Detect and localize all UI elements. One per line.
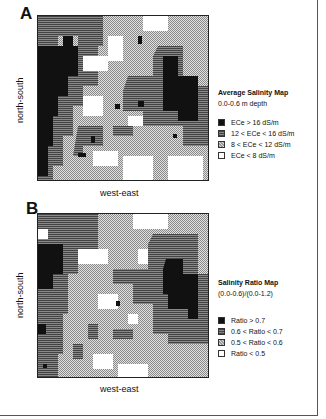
panel-a-label: A — [20, 4, 32, 24]
legend-item: 0.6 < Ratio < 0.7 — [218, 326, 283, 337]
legend-item: ECe > 16 dS/m — [218, 117, 294, 128]
legend-subtitle-b: (0.0-0.6)/(0.0-1.2) — [218, 288, 273, 299]
legend-item: 12 < ECe < 16 dS/m — [218, 128, 294, 139]
x-axis-label-b: west-east — [100, 384, 139, 394]
legend-subtitle-a: 0.0-0.6 m depth — [218, 98, 267, 109]
legend-item: 0.5 < Ratio < 0.6 — [218, 337, 283, 348]
legend-item: ECe < 8 dS/m — [218, 150, 294, 161]
salinity-map-a — [37, 15, 209, 181]
legend-title-a: Average Salinity Map — [218, 87, 288, 98]
legend-item: Ratio < 0.5 — [218, 348, 283, 359]
swatch-black — [218, 119, 225, 126]
legend-title-b: Salinity Ratio Map — [218, 277, 278, 288]
swatch-dark-hatch — [218, 328, 225, 335]
swatch-light-hatch — [218, 339, 225, 346]
legend-a: ECe > 16 dS/m 12 < ECe < 16 dS/m 8 < ECe… — [218, 117, 294, 161]
y-axis-label-b: north-south — [15, 272, 25, 318]
salinity-ratio-map-b — [37, 213, 209, 378]
legend-item: 8 < ECe < 12 dS/m — [218, 139, 294, 150]
x-axis-label-a: west-east — [100, 188, 139, 198]
legend-b: Ratio > 0.7 0.6 < Ratio < 0.7 0.5 < Rati… — [218, 315, 283, 359]
swatch-white — [218, 152, 225, 159]
swatch-black — [218, 317, 225, 324]
swatch-white — [218, 350, 225, 357]
swatch-light-hatch — [218, 141, 225, 148]
swatch-dark-hatch — [218, 130, 225, 137]
y-axis-label-a: north-south — [15, 77, 25, 123]
legend-item: Ratio > 0.7 — [218, 315, 283, 326]
